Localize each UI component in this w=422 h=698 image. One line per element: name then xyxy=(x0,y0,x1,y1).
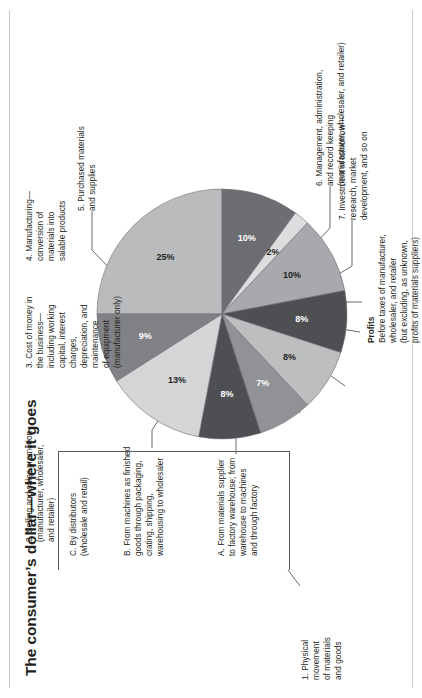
pie-svg: 25%10%2%10%8%8%7%8%13%9% xyxy=(96,188,348,440)
callout-physical-movement-heading: 1. Physicalmovementof materialsand goods xyxy=(300,590,344,680)
pie-label-movement-b: 8% xyxy=(283,352,296,362)
callout-movement-a: A. From materials supplierto factory war… xyxy=(216,441,260,556)
callout-manufacturing: 4. Manufacturing—conversion ofmaterials … xyxy=(24,151,68,261)
callout-cost-of-money: 3. Cost of money inthe business—includin… xyxy=(24,272,123,368)
profits-body: Before taxes of manufacturer,wholesaler,… xyxy=(377,234,420,343)
callout-profits: Profits Before taxes of manufacturer,who… xyxy=(366,193,421,343)
pie-label-management-admin: 10% xyxy=(238,233,256,243)
pie-label-movement-c: 7% xyxy=(256,378,269,388)
pie-label-purchased-materials: 25% xyxy=(156,252,174,262)
pie-label-profits: 10% xyxy=(283,270,301,280)
profits-heading: Profits xyxy=(366,193,377,343)
callout-selling: 2. Selling and sales promotion(manufactu… xyxy=(24,392,57,542)
pie-label-manufacturing: 9% xyxy=(139,331,152,341)
rotated-artwork-stage: The consumer’s dollar—where it goes xyxy=(0,0,422,698)
pie-label-selling-promotion: 8% xyxy=(221,389,234,399)
top-rule xyxy=(9,10,10,688)
callout-movement-c: C. By distributors(wholesale and retail) xyxy=(68,436,90,556)
pie-label-cost-of-money: 13% xyxy=(168,375,186,385)
infographic-page: The consumer’s dollar—where it goes xyxy=(0,0,422,698)
bottom-rule xyxy=(412,10,413,688)
callout-movement-b: B. From machines as finishedgoods throug… xyxy=(122,436,166,556)
pie-chart: 25%10%2%10%8%8%7%8%13%9% xyxy=(96,188,348,440)
pie-label-movement-a: 8% xyxy=(295,314,308,324)
callout-purchased-materials: 5. Purchased materialsand supplies xyxy=(76,91,98,211)
